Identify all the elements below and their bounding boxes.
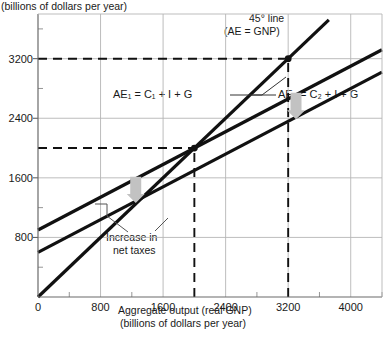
x-tick-label: 800 <box>81 301 121 313</box>
gridlines <box>38 14 382 297</box>
y-tick-label: 2400 <box>1 112 33 124</box>
x-tick-label: 4000 <box>331 301 371 313</box>
plot-canvas <box>0 0 387 345</box>
series-line-1 <box>38 20 329 297</box>
x-tick-label: 2400 <box>206 301 246 313</box>
x-tick-label: 0 <box>18 301 58 313</box>
y-tick-label: 3200 <box>1 53 33 65</box>
x-tick-label: 1600 <box>143 301 183 313</box>
series-line-3 <box>38 72 382 252</box>
y-tick-label: 800 <box>1 231 33 243</box>
series-line-2 <box>38 50 382 230</box>
equilibrium-point <box>191 145 198 152</box>
y-tick-label: 1600 <box>1 172 33 184</box>
aggregate-expenditure-chart: (billions of dollars per year) Aggregate… <box>0 0 387 345</box>
leader-net-taxes-b <box>155 218 168 231</box>
series-lines <box>38 20 382 297</box>
x-tick-label: 3200 <box>268 301 308 313</box>
plot-frame <box>38 14 382 297</box>
equilibrium-point <box>285 55 292 62</box>
